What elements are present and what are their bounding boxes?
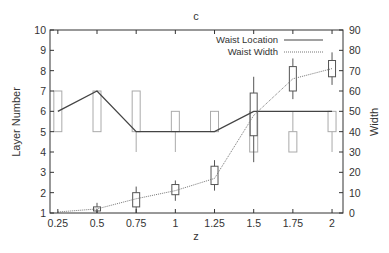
box [289,132,297,152]
x-axis-title: z [193,230,199,242]
y2-tick-label: 20 [349,166,361,178]
legend: Waist Location Waist Width [216,34,323,57]
y-axis-title: Layer Number [10,87,22,157]
x-tick-label: 2 [329,217,335,229]
legend-label-waist-location: Waist Location [216,34,278,45]
y2-tick-label: 60 [349,85,361,97]
x-tick-label: 0.25 [48,217,69,229]
y-tick-label: 10 [34,24,46,36]
x-tick-label: 1.75 [283,217,304,229]
y2-axis-title: Width [368,108,380,136]
box [329,61,336,77]
y2-tick-label: 70 [349,65,361,77]
y-tick-label: 6 [40,105,46,117]
y-tick-label: 3 [40,166,46,178]
y-tick-label: 5 [40,126,46,138]
y2-tick-label: 30 [349,146,361,158]
box [93,91,101,132]
box [250,93,257,136]
box [171,111,179,131]
y2-tick-label: 10 [349,187,361,199]
y-tick-label: 9 [40,44,46,56]
box [211,111,219,131]
y-tick-label: 2 [40,187,46,199]
y-tick-label: 1 [40,207,46,219]
box [132,91,140,132]
chart: 0.250.50.7511.251.51.7521234567891001020… [0,0,389,253]
y2-tick-label: 90 [349,24,361,36]
y2-tick-label: 80 [349,44,361,56]
box [133,193,140,207]
x-tick-label: 0.75 [126,217,147,229]
x-tick-label: 0.5 [90,217,105,229]
box [328,111,336,131]
chart-title: c [193,10,199,22]
width-boxes [94,52,336,213]
x-tick-label: 1.25 [204,217,225,229]
y2-tick-label: 0 [349,207,355,219]
y2-tick-label: 50 [349,105,361,117]
x-tick-label: 1.5 [246,217,261,229]
y-tick-label: 8 [40,65,46,77]
y-tick-label: 7 [40,85,46,97]
y-tick-label: 4 [40,146,46,158]
x-tick-label: 1 [172,217,178,229]
location-boxes [54,91,336,152]
axes: 0.250.50.7511.251.51.7521234567891001020… [34,24,361,229]
y2-tick-label: 40 [349,126,361,138]
legend-label-waist-width: Waist Width [228,46,278,57]
